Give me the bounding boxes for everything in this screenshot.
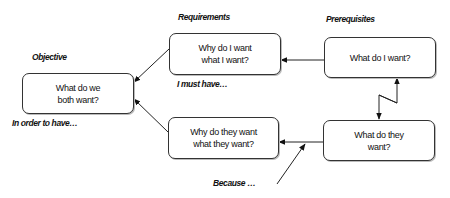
in-order-to-have-label: In order to have… (12, 118, 77, 128)
requirements-label: Requirements (178, 12, 230, 22)
prerequisite-other-text: What do they want? (354, 129, 403, 153)
conflict-zigzag-arrow-down (379, 95, 397, 119)
prerequisite-self-text: What do I want? (350, 52, 411, 64)
arrow-req-self-to-objective (134, 49, 169, 82)
conflict-cloud-diagram: What do we both want? Why do I want what… (0, 0, 450, 198)
objective-text: What do we both want? (56, 82, 101, 106)
objective-label: Objective (32, 52, 67, 62)
arrow-req-other-to-objective (134, 99, 168, 132)
prerequisite-self-box: What do I want? (324, 37, 436, 78)
requirement-other-box: Why do they want what they want? (168, 117, 279, 159)
i-must-have-label: I must have… (177, 79, 227, 89)
conflict-zigzag-arrow (379, 78, 397, 103)
prerequisites-label: Prerequisites (326, 14, 375, 24)
requirement-other-text: Why do they want what they want? (190, 126, 257, 150)
because-label: Because … (213, 178, 255, 188)
objective-box: What do we both want? (22, 73, 134, 114)
requirement-self-text: Why do I want what I want? (198, 42, 251, 66)
prerequisite-other-box: What do they want? (323, 120, 435, 161)
arrow-because-assumption (277, 144, 305, 184)
requirement-self-box: Why do I want what I want? (169, 33, 281, 75)
